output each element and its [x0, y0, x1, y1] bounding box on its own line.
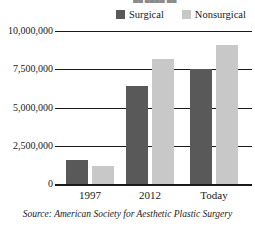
bar-nonsurgical-today — [216, 45, 238, 184]
x-axis-label-1997: 1997 — [66, 189, 114, 201]
x-axis-label-today: Today — [190, 189, 238, 201]
bars-layer — [0, 0, 255, 184]
bar-surgical-1997 — [66, 160, 88, 184]
plot-area: 02,500,0005,000,0007,500,00010,000,000 1… — [0, 0, 255, 200]
x-axis-baseline — [55, 184, 252, 186]
chart-figure: ██ ████ ██ Surgical Nonsurgical 02,500,0… — [0, 0, 255, 230]
bar-surgical-2012 — [126, 86, 148, 184]
bar-surgical-today — [190, 69, 212, 184]
source-note: Source: American Society for Aesthetic P… — [0, 209, 255, 220]
bar-nonsurgical-2012 — [152, 59, 174, 184]
x-axis-label-2012: 2012 — [126, 189, 174, 201]
bar-nonsurgical-1997 — [92, 166, 114, 184]
